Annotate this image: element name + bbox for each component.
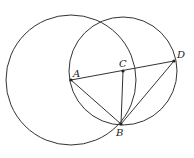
point-d	[172, 59, 175, 62]
label-a: A	[72, 68, 80, 79]
segment-db	[121, 61, 174, 124]
point-c	[121, 69, 124, 72]
label-d: D	[176, 49, 185, 60]
point-b	[119, 122, 122, 125]
segment-cb	[121, 71, 123, 124]
label-c: C	[119, 58, 127, 69]
geometry-diagram: A B C D	[0, 0, 194, 158]
label-b: B	[115, 127, 123, 138]
